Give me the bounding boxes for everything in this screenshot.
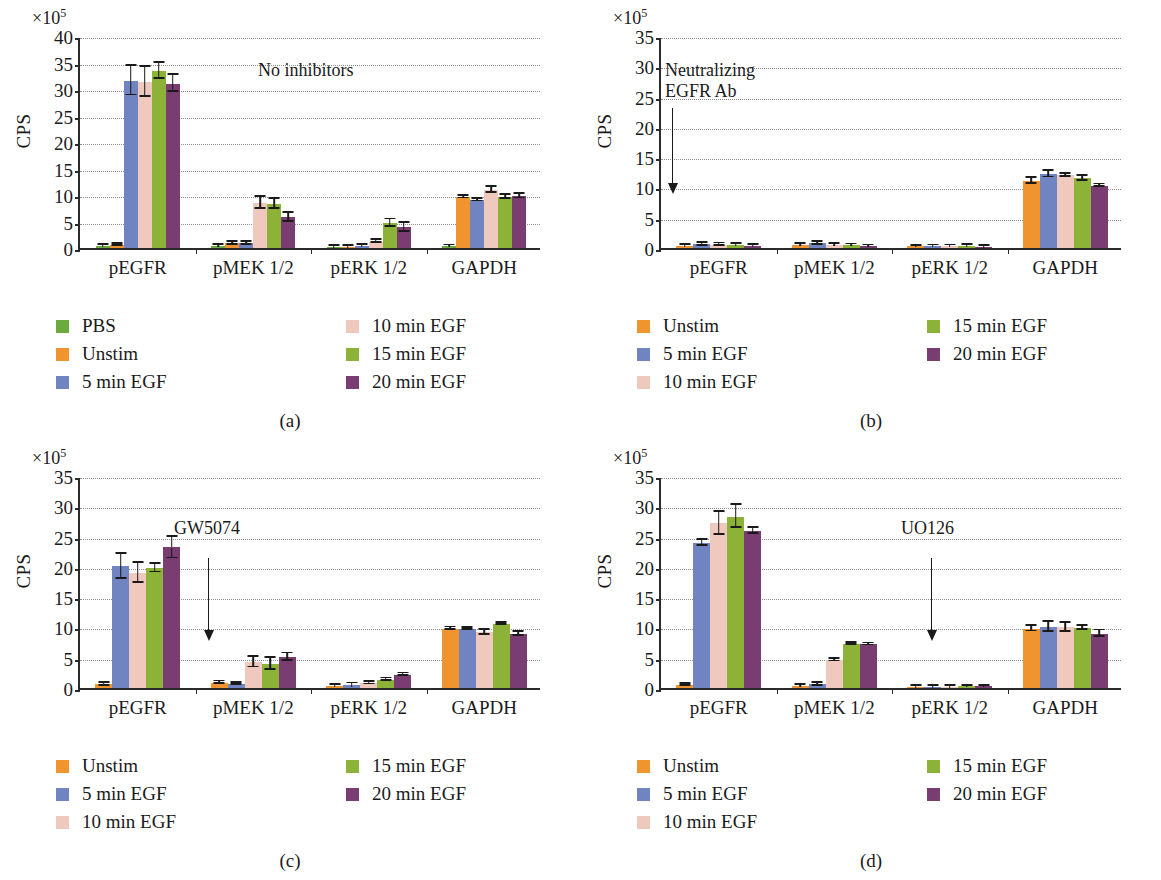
bar: [1023, 181, 1040, 248]
legend-item[interactable]: 10 min EGF: [346, 312, 466, 340]
bar: [498, 197, 512, 248]
legend-label: 15 min EGF: [953, 755, 1047, 777]
legend-item[interactable]: 10 min EGF: [637, 368, 757, 396]
legend-swatch-15-min-EGF: [927, 760, 940, 773]
legend-item[interactable]: 15 min EGF: [927, 752, 1047, 780]
error-bar-cap-top: [944, 244, 955, 246]
bar-fill-5-min-EGF: [1040, 174, 1057, 248]
bar: [341, 247, 355, 249]
y-tick-mark: [75, 91, 80, 93]
y-tick-mark: [75, 144, 80, 146]
error-bar-cap-bottom: [398, 230, 409, 232]
error-bar-cap-top: [346, 682, 357, 684]
legend-label: 20 min EGF: [953, 343, 1047, 365]
y-tick-mark: [75, 118, 80, 120]
bar: [1091, 634, 1108, 689]
error-bar-cap-top: [153, 61, 164, 63]
bar: [146, 568, 163, 688]
error-bar-lower: [799, 245, 801, 246]
legend-item[interactable]: 5 min EGF: [56, 780, 176, 808]
error-bar-cap-top: [115, 552, 126, 554]
bar: [975, 686, 992, 688]
y-tick-mark: [656, 250, 661, 252]
legend-item[interactable]: 10 min EGF: [56, 808, 176, 836]
legend-label: 10 min EGF: [82, 811, 176, 833]
error-bar-lower: [333, 247, 335, 248]
legend-item[interactable]: 20 min EGF: [346, 368, 466, 396]
error-bar-cap-bottom: [730, 526, 741, 528]
y-tick-label: 15: [54, 160, 73, 182]
legend-item[interactable]: 5 min EGF: [637, 340, 757, 368]
bar: [924, 246, 941, 248]
panel-caption-d: (d): [581, 850, 1161, 872]
legend-column: 15 min EGF20 min EGF: [927, 312, 1047, 368]
annotation-text-d: UO126: [901, 518, 954, 539]
bar-fill-5-min-EGF: [459, 629, 476, 688]
legend-item[interactable]: 10 min EGF: [637, 808, 757, 836]
error-bar-cap-bottom: [1094, 635, 1105, 637]
y-tick-label: 35: [54, 54, 73, 76]
panel-b: CPS×10505101520253035pEGFRpMEK 1/2pERK 1…: [581, 0, 1161, 440]
y-tick-mark: [75, 629, 80, 631]
legend-item[interactable]: Unstim: [56, 340, 166, 368]
error-bar-cap-bottom: [713, 244, 724, 246]
error-bar-cap-top: [139, 65, 150, 67]
error-bar-cap-bottom: [1077, 628, 1088, 630]
legend-item[interactable]: 5 min EGF: [637, 780, 757, 808]
y-tick-mark: [75, 65, 80, 67]
legend-item[interactable]: Unstim: [637, 752, 757, 780]
bar: [826, 660, 843, 688]
legend-item[interactable]: 5 min EGF: [56, 368, 166, 396]
error-bar-lower: [915, 246, 917, 247]
y-axis-label-a: CPS: [13, 113, 35, 148]
gridline: [80, 478, 540, 479]
error-bar: [735, 505, 737, 517]
y-tick-mark: [656, 220, 661, 222]
bar: [843, 245, 860, 248]
y-tick-mark: [656, 599, 661, 601]
legend-item[interactable]: 20 min EGF: [927, 340, 1047, 368]
legend-item[interactable]: PBS: [56, 312, 166, 340]
y-tick-mark: [656, 159, 661, 161]
y-tick-label: 35: [635, 467, 654, 489]
error-bar-cap-top: [713, 510, 724, 512]
error-bar-cap-bottom: [479, 633, 490, 635]
error-bar-cap-top: [458, 194, 469, 196]
bar: [262, 664, 279, 688]
axis-multiplier-b: ×105: [613, 6, 647, 29]
y-tick-label: 25: [54, 107, 73, 129]
y-axis-label-b: CPS: [594, 113, 616, 148]
legend-item[interactable]: Unstim: [637, 312, 757, 340]
legend-item[interactable]: Unstim: [56, 752, 176, 780]
y-tick-label: 20: [635, 118, 654, 140]
y-tick-label: 30: [635, 57, 654, 79]
y-tick-label: 5: [64, 213, 74, 235]
gridline: [661, 38, 1121, 39]
legend-item[interactable]: 20 min EGF: [927, 780, 1047, 808]
error-bar-cap-bottom: [863, 644, 874, 646]
error-bar-lower: [351, 685, 353, 687]
bar: [394, 675, 411, 688]
bar-fill-10-min-EGF: [253, 203, 267, 248]
bar-fill-Unstim: [1023, 181, 1040, 248]
legend-item[interactable]: 15 min EGF: [346, 752, 466, 780]
bar-fill-15-min-EGF: [377, 680, 394, 688]
y-tick-mark: [656, 68, 661, 70]
annotation-arrow-shaft-b: [672, 108, 673, 183]
bar: [958, 686, 975, 688]
error-bar-cap-bottom: [1043, 630, 1054, 632]
legend-item[interactable]: 20 min EGF: [346, 780, 466, 808]
error-bar-cap-top: [97, 243, 108, 245]
y-tick-label: 25: [635, 528, 654, 550]
error-bar-lower: [850, 245, 852, 246]
legend-label: 5 min EGF: [82, 783, 166, 805]
error-bar-cap-top: [696, 538, 707, 540]
error-bar: [171, 537, 173, 548]
legend-item[interactable]: 15 min EGF: [927, 312, 1047, 340]
bar: [397, 227, 411, 248]
error-bar-cap-bottom: [472, 200, 483, 202]
bar: [676, 246, 693, 248]
legend-item[interactable]: 15 min EGF: [346, 340, 466, 368]
legend-label: Unstim: [82, 343, 138, 365]
bar-fill-15-min-EGF: [727, 517, 744, 688]
